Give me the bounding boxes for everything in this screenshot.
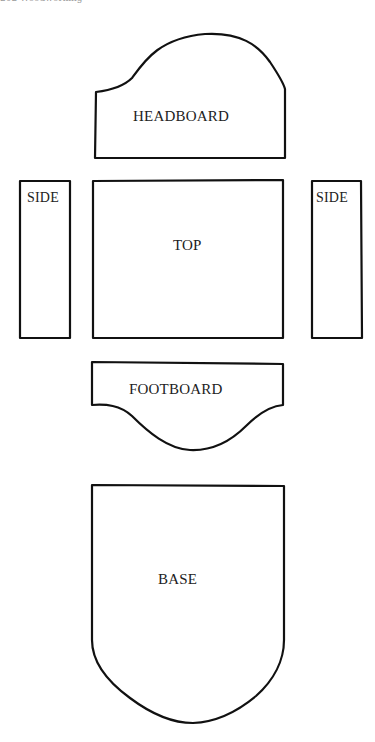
top-label: TOP [173, 237, 202, 254]
side-left-label: SIDE [27, 190, 59, 206]
base-label: BASE [158, 571, 197, 588]
footboard-outline [92, 362, 283, 450]
top-outline [93, 180, 283, 338]
headboard-label: HEADBOARD [133, 108, 229, 125]
headboard-outline [95, 34, 285, 158]
base-outline [92, 485, 284, 723]
footboard-label: FOOTBOARD [129, 381, 222, 398]
side-right-label: SIDE [316, 190, 348, 206]
